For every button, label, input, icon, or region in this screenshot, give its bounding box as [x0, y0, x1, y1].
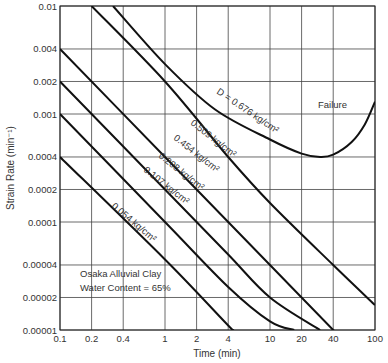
failure-annotation: Failure — [318, 99, 347, 110]
y-tick-label: 0.00002 — [23, 292, 57, 303]
series-line — [60, 157, 235, 332]
y-tick-label: 0.004 — [33, 43, 57, 54]
x-tick-label: 0.1 — [53, 333, 66, 344]
x-tick-label: 100 — [367, 333, 383, 344]
x-tick-label: 4 — [226, 333, 231, 344]
y-tick-label: 0.002 — [33, 76, 57, 87]
y-axis-label: Strain Rate (min⁻¹) — [5, 126, 16, 210]
y-tick-label: 0.0001 — [28, 217, 57, 228]
x-tick-label: 20 — [296, 333, 307, 344]
x-tick-label: 1 — [162, 333, 167, 344]
x-axis-ticks: 0.10.20.4124102040100 — [53, 333, 383, 344]
y-axis-ticks: 0.010.0040.0020.0010.00040.00020.00010.0… — [23, 1, 57, 336]
x-tick-label: 10 — [265, 333, 276, 344]
strain-rate-chart: 0.010.0040.0020.0010.00040.00020.00010.0… — [0, 0, 388, 363]
y-tick-label: 0.001 — [33, 109, 57, 120]
y-tick-label: 0.00004 — [23, 259, 57, 270]
x-axis-label: Time (min) — [193, 348, 240, 359]
x-tick-label: 0.2 — [85, 333, 98, 344]
y-tick-label: 0.01 — [39, 1, 58, 12]
material-annotation: Osaka Alluvial Clay — [80, 268, 162, 279]
y-tick-label: 0.00001 — [23, 325, 57, 336]
x-tick-label: 40 — [328, 333, 339, 344]
water-content-annotation: Water Content = 65% — [80, 282, 171, 293]
y-tick-label: 0.0004 — [28, 151, 57, 162]
x-tick-label: 0.4 — [117, 333, 130, 344]
y-tick-label: 0.0002 — [28, 184, 57, 195]
x-tick-label: 2 — [194, 333, 199, 344]
